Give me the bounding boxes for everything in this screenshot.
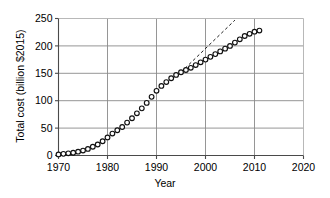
plot-frame (59, 19, 304, 156)
svg-text:1980: 1980 (96, 161, 120, 173)
svg-text:100: 100 (35, 94, 53, 106)
x-axis-title-container: Year (0, 178, 330, 189)
svg-text:250: 250 (35, 12, 53, 24)
chart-figure: 050100150200250197019801990200020102020 … (0, 0, 330, 198)
svg-text:150: 150 (35, 67, 53, 79)
svg-text:2010: 2010 (243, 161, 267, 173)
svg-text:2020: 2020 (292, 161, 316, 173)
y-axis-title: Total cost (billion $2015) (15, 29, 26, 142)
axis-ticks (55, 19, 304, 160)
gridlines (59, 19, 304, 156)
svg-text:0: 0 (47, 149, 53, 161)
tick-labels: 050100150200250197019801990200020102020 (35, 12, 315, 172)
chart-svg: 050100150200250197019801990200020102020 (0, 0, 330, 198)
svg-text:1970: 1970 (47, 161, 71, 173)
svg-text:200: 200 (35, 40, 53, 52)
svg-text:50: 50 (41, 122, 53, 134)
data-series-markers (56, 28, 262, 157)
svg-text:2000: 2000 (194, 161, 218, 173)
y-axis-title-container: Total cost (billion $2015) (13, 11, 27, 161)
x-axis-title: Year (154, 178, 175, 189)
svg-text:1990: 1990 (145, 161, 169, 173)
